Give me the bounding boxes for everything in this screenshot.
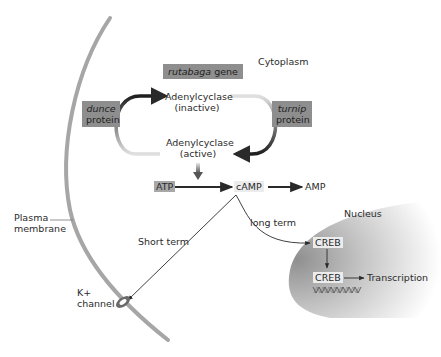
dunce-protein-box: dunce protein bbox=[82, 101, 120, 127]
dunce-italic: dunce bbox=[86, 103, 115, 114]
amp-label: AMP bbox=[305, 181, 325, 192]
dunce-protein-label: protein bbox=[86, 114, 116, 125]
diagram-canvas bbox=[0, 0, 441, 357]
adenylcyclase-inactive-name: Adenylcyclase bbox=[165, 91, 229, 102]
turnip-protein-label: protein bbox=[276, 114, 308, 125]
atp-box: ATP bbox=[154, 181, 175, 192]
cycle-arrow-right bbox=[230, 96, 276, 154]
adenylcyclase-active: Adenylcyclase (active) bbox=[166, 137, 230, 159]
transcription-label: Transcription bbox=[367, 272, 428, 283]
rutabaga-gene-box: rutabaga gene bbox=[163, 64, 243, 79]
long-term-label: long term bbox=[250, 217, 296, 228]
creb-box-2: CREB bbox=[313, 272, 343, 283]
creb-box-1: CREB bbox=[313, 237, 343, 248]
adenylcyclase-inactive-state: (inactive) bbox=[165, 102, 229, 113]
rutabaga-rest: gene bbox=[211, 66, 238, 77]
channel-label: channel bbox=[77, 298, 115, 309]
cycle-arrow-left bbox=[116, 96, 165, 154]
plasma-membrane-label: Plasma membrane bbox=[14, 212, 66, 234]
k-ion-label: K+ bbox=[77, 287, 115, 298]
turnip-italic: turnip bbox=[278, 103, 306, 114]
down-arrow-head bbox=[193, 172, 203, 180]
adenylcyclase-active-state: (active) bbox=[166, 148, 230, 159]
k-channel-label: K+ channel bbox=[77, 287, 115, 309]
plasma-label-line2: membrane bbox=[14, 223, 66, 234]
rutabaga-italic: rutabaga bbox=[168, 66, 211, 77]
short-term-arrow bbox=[128, 195, 236, 300]
adenylcyclase-active-name: Adenylcyclase bbox=[166, 137, 230, 148]
adenylcyclase-inactive: Adenylcyclase (inactive) bbox=[165, 91, 229, 113]
short-term-label: Short term bbox=[138, 236, 189, 247]
nucleus-label: Nucleus bbox=[344, 208, 382, 219]
turnip-protein-box: turnip protein bbox=[272, 101, 312, 127]
cytoplasm-label: Cytoplasm bbox=[258, 56, 309, 67]
plasma-label-line1: Plasma bbox=[14, 212, 66, 223]
camp-box: cAMP bbox=[234, 181, 264, 192]
